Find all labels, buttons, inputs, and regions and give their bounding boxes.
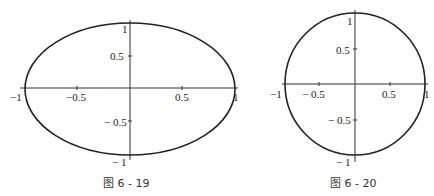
x-tick-label: 0.5 (175, 92, 189, 103)
figure-caption: 图 6 - 19 (103, 174, 149, 190)
x-tick-label: 1 (233, 92, 239, 103)
y-tick-label: 1 (122, 24, 128, 35)
y-tick-label: − 0.5 (328, 115, 351, 126)
x-tick-label: 1 (424, 89, 430, 100)
figure-6-19: −1 −0.5 0.5 1 1 0.5 − 0.5 − 1 图 6 - 19 (0, 0, 250, 196)
x-tick-label: −1 (10, 92, 22, 103)
y-tick-label: 0.5 (336, 45, 350, 56)
x-tick-label: −0.5 (66, 92, 86, 103)
y-tick-label: 0.5 (110, 51, 124, 62)
y-tick-label: − 1 (336, 157, 350, 168)
x-tick-label: − 0.5 (302, 89, 325, 100)
y-tick-label: 1 (347, 16, 353, 27)
x-tick-label: 0.5 (382, 89, 396, 100)
x-tick-label: −1 (270, 89, 282, 100)
figure-6-20: −1 − 0.5 0.5 1 1 0.5 − 0.5 − 1 图 6 - 20 (250, 0, 434, 196)
y-tick-label: − 1 (112, 157, 126, 168)
figure-caption: 图 6 - 20 (330, 174, 376, 190)
y-tick-label: − 0.5 (104, 117, 127, 128)
